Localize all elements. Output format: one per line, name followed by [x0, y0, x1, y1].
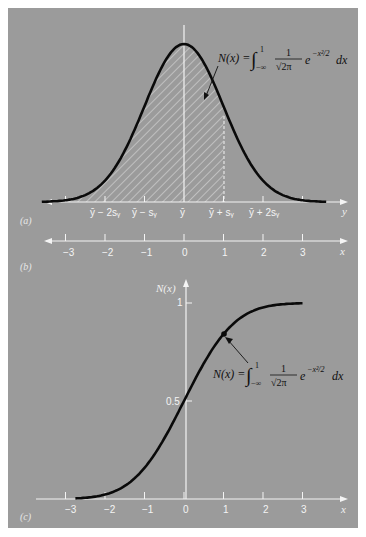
panel-label-b: (b) — [20, 261, 32, 273]
svg-text:√2π: √2π — [276, 61, 292, 72]
tick-label-b-m3: −3 — [63, 247, 75, 258]
tick-label-b-1: 1 — [222, 247, 228, 258]
svg-text:N(x) =: N(x) = — [217, 51, 250, 65]
svg-text:1: 1 — [255, 361, 259, 370]
axis-c-x-name: x — [340, 503, 346, 515]
svg-text:e: e — [300, 369, 306, 383]
tick-label-b-2: 2 — [261, 247, 267, 258]
tick-label-plus-s: ȳ + sᵧ — [209, 207, 234, 218]
svg-text:−x²/2: −x²/2 — [312, 49, 330, 58]
svg-text:−∞: −∞ — [251, 379, 262, 388]
tick-label-b-m1: −1 — [141, 247, 153, 258]
tick-label-minus-2s: ȳ − 2sᵧ — [90, 207, 121, 218]
axis-c-y-arrow — [183, 279, 189, 287]
y-tick-label-1: 1 — [177, 297, 183, 308]
tick-label-c-2: 2 — [263, 504, 269, 515]
tick-label-c-1: 1 — [223, 504, 229, 515]
tick-label-plus-2s: ȳ + 2sᵧ — [249, 207, 280, 218]
panel-c: N(x) 0.5 1 −3 −2 −1 0 1 2 3 x (c) N(x) =… — [20, 279, 348, 523]
tick-label-b-m2: −2 — [102, 247, 114, 258]
axis-b-ticks — [66, 234, 303, 241]
tick-label-b-3: 3 — [300, 247, 306, 258]
shaded-cumulative-area — [42, 44, 224, 202]
axis-b-right-arrow — [340, 238, 348, 244]
svg-text:1: 1 — [260, 45, 264, 54]
highlight-point — [221, 331, 227, 337]
tick-label-c-3: 3 — [301, 504, 307, 515]
svg-text:−x²/2: −x²/2 — [307, 365, 325, 374]
svg-text:1: 1 — [281, 363, 286, 374]
panel-label-a: (a) — [20, 215, 32, 227]
axis-b-name: x — [339, 245, 345, 257]
tick-label-b-0: 0 — [182, 247, 188, 258]
formula-c: N(x) = ∫ 1 −∞ 1 √2π e −x²/2 dx — [212, 337, 344, 388]
axis-b-left-arrow — [44, 238, 52, 244]
tick-label-minus-s: ȳ − sᵧ — [132, 207, 157, 218]
panel-label-c: (c) — [20, 511, 32, 523]
axis-c-y-name: N(x) — [155, 282, 176, 295]
formula-a: N(x) = ∫ 1 −∞ 1 √2π e −x²/2 dx — [204, 45, 348, 100]
tick-label-c-m1: −1 — [142, 504, 154, 515]
svg-text:1: 1 — [286, 47, 291, 58]
svg-text:e: e — [305, 53, 311, 67]
axis-a-name: y — [341, 205, 347, 217]
figure-canvas: ȳ − 2sᵧ ȳ − sᵧ ȳ ȳ + sᵧ ȳ + 2sᵧ y (a) N(… — [8, 8, 358, 528]
svg-text:dx: dx — [332, 369, 344, 383]
tick-label-c-0: 0 — [183, 504, 189, 515]
svg-text:N(x) =: N(x) = — [212, 367, 245, 381]
formula-c-pointer — [228, 340, 248, 363]
tick-label-mean: ȳ — [180, 207, 185, 218]
svg-text:dx: dx — [336, 53, 348, 67]
y-tick-label-0-5: 0.5 — [166, 396, 180, 407]
panel-a: ȳ − 2sᵧ ȳ − sᵧ ȳ ȳ + sᵧ ȳ + 2sᵧ y (a) N(… — [20, 25, 348, 227]
tick-label-c-m3: −3 — [65, 504, 77, 515]
normal-distribution-figure: ȳ − 2sᵧ ȳ − sᵧ ȳ ȳ + sᵧ ȳ + 2sᵧ y (a) N(… — [8, 8, 358, 528]
tick-label-c-m2: −2 — [104, 504, 116, 515]
panel-b: −3 −2 −1 0 1 2 3 x (b) — [20, 234, 348, 273]
axis-c-x-arrow — [340, 496, 348, 502]
svg-text:√2π: √2π — [271, 377, 287, 388]
svg-text:−∞: −∞ — [256, 63, 267, 72]
